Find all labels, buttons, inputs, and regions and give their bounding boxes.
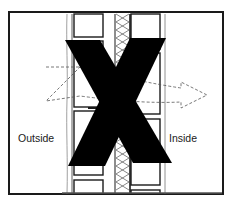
inside-label: Inside — [169, 133, 197, 144]
wall-section-diagram: Outside Inside — [0, 0, 230, 199]
outside-label: Outside — [18, 133, 54, 144]
